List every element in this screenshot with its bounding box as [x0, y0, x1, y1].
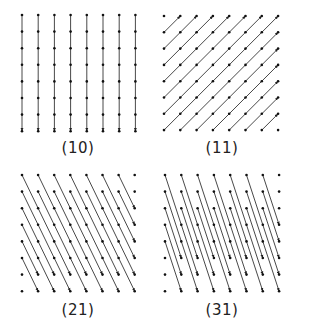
lattice-point — [212, 80, 215, 83]
lattice-point — [179, 129, 182, 132]
lattice-point — [180, 174, 183, 177]
lattice-point — [229, 190, 232, 193]
lattice-line — [22, 241, 38, 274]
lattice-point — [53, 14, 56, 17]
lattice-point — [213, 257, 216, 260]
lattice-point — [196, 290, 199, 293]
lattice-point — [261, 80, 264, 83]
lattice-point — [117, 290, 120, 293]
lattice-point — [213, 290, 216, 293]
lattice-point — [212, 47, 215, 50]
lattice-point — [213, 240, 216, 243]
lattice-point — [164, 290, 167, 293]
lattice-point — [117, 190, 120, 193]
lattice-point — [245, 240, 248, 243]
lattice-point — [195, 113, 198, 116]
lattice-line — [197, 49, 279, 131]
lattice-point — [134, 47, 137, 50]
lattice-point — [117, 257, 120, 260]
lattice-point — [37, 14, 40, 17]
lattice-point — [262, 207, 265, 210]
lattice-point — [164, 224, 167, 227]
lattice-point — [262, 224, 265, 227]
lattice-point — [133, 207, 136, 210]
lattice-point — [278, 224, 281, 227]
lattice-point — [102, 80, 105, 83]
lattice-point — [262, 240, 265, 243]
lattice-point — [37, 47, 40, 50]
lattice-point — [179, 31, 182, 34]
lattice-point — [21, 97, 24, 100]
lattice-point — [102, 47, 105, 50]
lattice-line — [164, 16, 246, 98]
lattice-point — [69, 224, 72, 227]
lattice-point — [213, 207, 216, 210]
lattice-point — [118, 47, 121, 50]
lattice-point — [69, 273, 72, 276]
lattice-point — [163, 80, 166, 83]
lattice-point — [69, 64, 72, 67]
lattice-point — [261, 31, 264, 34]
lattice-point — [244, 80, 247, 83]
lattice-point — [164, 174, 167, 177]
lattice-point — [277, 129, 280, 132]
lattice-point — [163, 96, 166, 99]
panel-label-11: (11) — [206, 139, 239, 157]
lattice-point — [229, 273, 232, 276]
lattice-point — [180, 224, 183, 227]
lattice-point — [133, 174, 136, 177]
lattice-point — [53, 273, 56, 276]
lattice-line — [22, 175, 70, 275]
lattice-point — [196, 207, 199, 210]
lattice-point — [277, 64, 280, 67]
lattice-point — [133, 224, 136, 227]
lattice-point — [196, 224, 199, 227]
lattice-point — [195, 80, 198, 83]
lattice-point — [21, 174, 24, 177]
lattice-point — [244, 96, 247, 99]
lattice-line — [54, 192, 102, 292]
lattice-point — [229, 240, 232, 243]
lattice-point — [85, 257, 88, 260]
lattice-point — [37, 240, 40, 243]
lattice-point — [21, 30, 24, 33]
lattice-point — [245, 190, 248, 193]
lattice-point — [86, 80, 89, 83]
lattice-point — [53, 257, 56, 260]
lattice-point — [163, 129, 166, 132]
lattice-point — [53, 174, 56, 177]
lattice-point — [195, 129, 198, 132]
lattice-point — [278, 240, 281, 243]
lattice-line — [70, 175, 118, 275]
lattice-point — [21, 207, 24, 210]
lattice-point — [118, 14, 121, 17]
lattice-point — [244, 129, 247, 132]
lattice-point — [196, 240, 199, 243]
lattice-point — [21, 257, 24, 260]
lattice-point — [212, 129, 215, 132]
lattice-point — [86, 113, 89, 116]
lattice-point — [69, 80, 72, 83]
panel-11: (11) — [163, 15, 280, 157]
lattice-point — [245, 207, 248, 210]
lattice-point — [117, 240, 120, 243]
lattice-point — [21, 273, 24, 276]
lattice-point — [262, 174, 265, 177]
lattice-point — [228, 47, 231, 50]
panel-label-10: (10) — [62, 139, 95, 157]
lattice-point — [180, 257, 183, 260]
lattice-point — [180, 190, 183, 193]
lattice-point — [85, 207, 88, 210]
lattice-point — [21, 14, 24, 17]
lattice-point — [37, 224, 40, 227]
lattice-point — [245, 174, 248, 177]
lattice-point — [53, 130, 56, 133]
lattice-line — [70, 192, 118, 292]
lattice-point — [102, 97, 105, 100]
lattice-point — [245, 273, 248, 276]
lattice-point — [229, 290, 232, 293]
lattice-point — [179, 15, 182, 18]
lattice-point — [21, 113, 24, 116]
lattice-point — [69, 190, 72, 193]
lattice-point — [86, 130, 89, 133]
